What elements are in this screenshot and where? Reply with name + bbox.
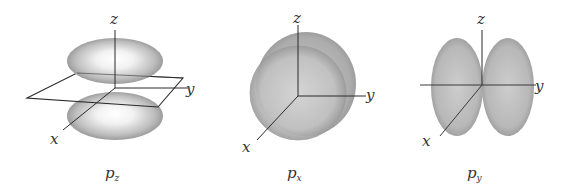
y-axis-label: y — [534, 77, 544, 95]
orbital-label-subscript: z — [114, 173, 120, 183]
y-axis-label: y — [365, 86, 375, 104]
x-axis-label: x — [422, 132, 431, 150]
z-axis-label: z — [109, 10, 118, 28]
panel-px: z y x px — [242, 9, 375, 183]
orbital-label-main: p — [467, 164, 477, 182]
orbital-label-subscript: x — [297, 173, 302, 183]
py-left-lobe — [431, 38, 483, 136]
panel-py: z y x py — [420, 10, 544, 183]
orbital-label-py: py — [467, 164, 483, 183]
orbital-label-main: p — [105, 164, 115, 182]
y-axis-label: y — [185, 80, 195, 98]
z-axis-label: z — [476, 10, 485, 28]
orbital-label-main: p — [287, 164, 297, 182]
z-axis-label: z — [292, 9, 301, 27]
panel-pz: z y x pz — [27, 10, 195, 183]
x-axis-label: x — [50, 130, 59, 148]
orbital-label-px: px — [287, 164, 302, 183]
x-axis-label: x — [242, 138, 251, 156]
py-right-lobe — [482, 38, 534, 136]
orbital-label-pz: pz — [105, 164, 120, 183]
orbital-diagram: z y x pz z y x px z y x py — [0, 0, 563, 189]
orbital-label-subscript: y — [476, 173, 483, 183]
pz-bottom-lobe — [67, 92, 163, 140]
